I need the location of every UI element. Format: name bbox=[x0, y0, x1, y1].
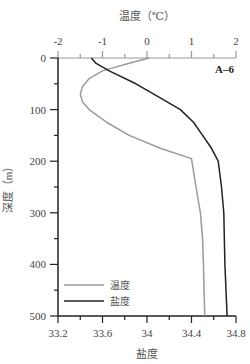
bottom-axis-tick-label: 34 bbox=[142, 327, 154, 339]
bottom-axis-tick-label: 33.2 bbox=[48, 327, 67, 339]
top-axis-tick-label: -1 bbox=[98, 35, 107, 47]
temperature-line bbox=[80, 58, 205, 316]
profile-chart: -2-1012温度（℃）33.233.63434.434.8盐度01002003… bbox=[0, 0, 250, 364]
y-axis-tick-label: 400 bbox=[30, 258, 47, 270]
bottom-axis-title: 盐度 bbox=[136, 347, 158, 360]
y-axis-title: 深度（m） bbox=[1, 161, 14, 214]
y-axis-tick-label: 200 bbox=[30, 155, 47, 167]
panel-label: A–6 bbox=[215, 63, 234, 75]
top-axis-tick-label: 0 bbox=[144, 35, 150, 47]
legend-label: 盐度 bbox=[110, 295, 130, 307]
y-axis-tick-label: 300 bbox=[30, 207, 47, 219]
top-axis-title: 温度（℃） bbox=[119, 9, 175, 22]
bottom-axis-tick-label: 33.6 bbox=[93, 327, 113, 339]
legend-label: 温度 bbox=[110, 279, 130, 291]
top-axis-tick-label: 1 bbox=[189, 35, 195, 47]
bottom-axis-tick-label: 34.8 bbox=[226, 327, 246, 339]
y-axis-tick-label: 500 bbox=[30, 310, 47, 322]
y-axis-tick-label: 0 bbox=[41, 52, 47, 64]
salinity-line bbox=[91, 58, 227, 316]
bottom-axis-tick-label: 34.4 bbox=[182, 327, 202, 339]
top-axis-tick-label: -2 bbox=[53, 35, 62, 47]
top-axis-tick-label: 2 bbox=[233, 35, 239, 47]
y-axis-tick-label: 100 bbox=[30, 104, 47, 116]
